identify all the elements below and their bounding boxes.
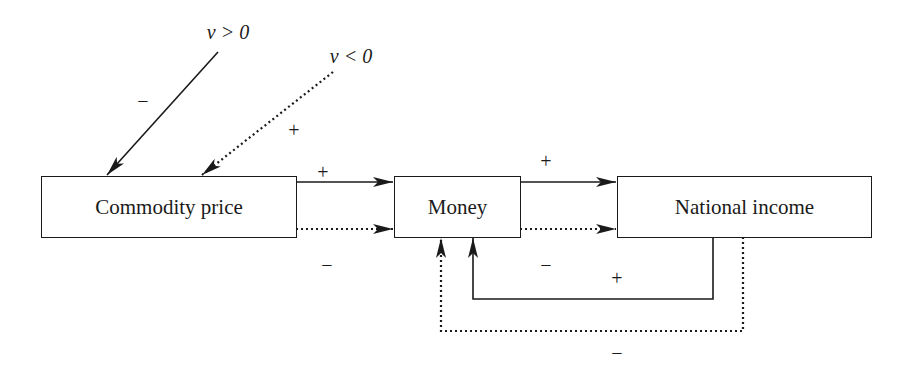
node-label: Money [428,195,488,220]
edge-v-positive-to-price [107,52,218,175]
edge-v-negative-to-price [202,72,333,175]
sign-price-to-money-solid: + [317,162,328,182]
edge-income-to-money-solid [473,237,713,299]
sign-income-to-money-solid: + [611,268,622,288]
node-money: Money [394,176,521,238]
sign-money-to-income-solid: + [540,151,551,171]
sign-income-to-money-dotted: − [611,343,622,363]
node-label: National income [675,195,814,220]
condition-v-positive: v > 0 [207,22,249,42]
node-commodity-price: Commodity price [41,176,297,238]
sign-v-neg-to-price: + [288,120,299,140]
condition-v-negative: v < 0 [330,46,372,66]
sign-price-to-money-dotted: − [321,255,332,275]
sign-v-pos-to-price: − [137,91,148,111]
sign-money-to-income-dotted: − [540,255,551,275]
edge-income-to-money-dotted [441,237,743,331]
node-label: Commodity price [95,195,243,220]
node-national-income: National income [617,176,872,238]
